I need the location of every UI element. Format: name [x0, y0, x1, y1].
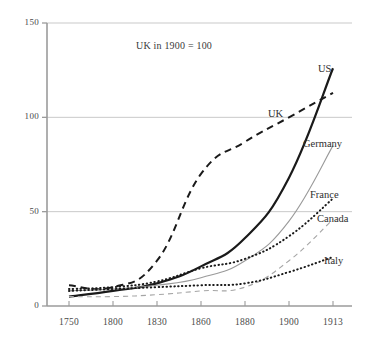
series-label-canada: Canada — [317, 213, 349, 224]
x-tick-label: 1800 — [91, 317, 135, 327]
x-tick-label: 1880 — [223, 317, 267, 327]
series-label-france: France — [310, 189, 339, 200]
grid-lines — [47, 23, 352, 212]
series-label-uk: UK — [268, 108, 283, 119]
y-tick-label: 50 — [9, 206, 39, 216]
series-label-italy: Italy — [324, 255, 343, 266]
series-lines — [69, 68, 333, 296]
series-line-uk — [69, 93, 333, 289]
series-label-germany: Germany — [303, 138, 342, 149]
y-tick-label: 0 — [9, 300, 39, 310]
series-label-us: US — [318, 63, 331, 74]
chart-note: UK in 1900 = 100 — [136, 40, 212, 51]
y-tick-label: 150 — [9, 17, 39, 27]
y-tick-label: 100 — [9, 111, 39, 121]
x-tick-label: 1913 — [311, 317, 355, 327]
x-tick-label: 1900 — [267, 317, 311, 327]
x-tick-label: 1860 — [179, 317, 223, 327]
x-tick-label: 1750 — [47, 317, 91, 327]
x-tick-label: 1830 — [135, 317, 179, 327]
chart-plot-area — [0, 0, 379, 350]
series-line-italy — [69, 257, 333, 291]
tick-marks — [42, 23, 333, 306]
chart-container: 150100500 1750180018301860188019001913 U… — [0, 0, 379, 350]
series-line-us — [69, 68, 333, 296]
axis-lines — [47, 23, 352, 306]
